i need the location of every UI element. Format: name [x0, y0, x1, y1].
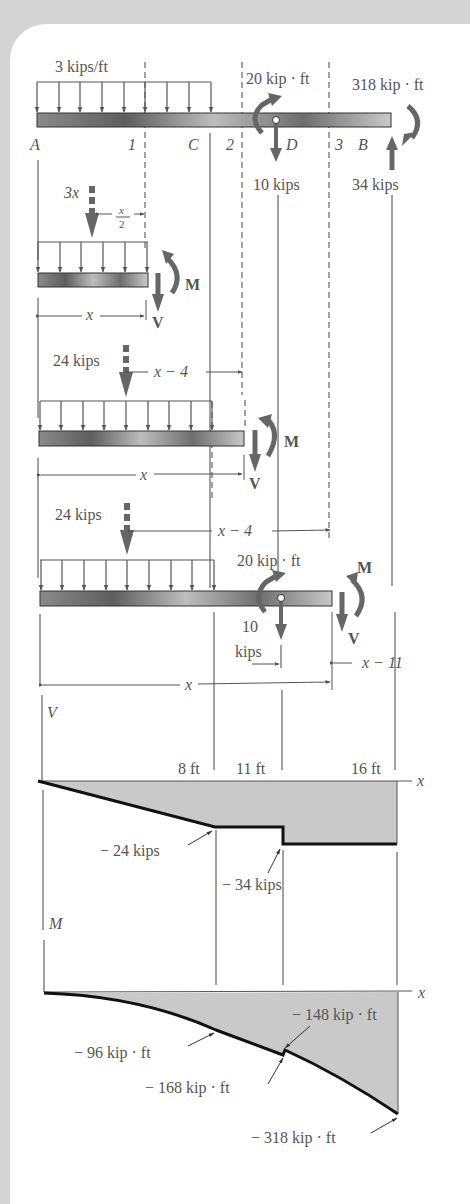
down-arrow-icon — [120, 530, 134, 555]
load-value-label: 10 — [242, 618, 258, 635]
annotation-minus-148: − 148 kip · ft — [292, 1006, 377, 1024]
down-arrow-icon — [275, 624, 287, 640]
down-arrow-icon — [152, 294, 164, 312]
load-unit-label: kips — [235, 643, 262, 661]
distance-label: x − 4 — [217, 522, 252, 539]
free-body-diagram-2: 24 kips x − 4 M V x — [39, 345, 299, 492]
tick-8ft: 8 ft — [178, 760, 200, 777]
annotation-minus-96: − 96 kip · ft — [74, 1044, 151, 1062]
shear-diagram: V x 8 ft 11 ft 16 ft − 24 kips − 34 kips — [38, 704, 424, 894]
resultant-label: 24 kips — [53, 352, 100, 370]
section-2-label: 2 — [226, 136, 234, 153]
point-b-label: B — [358, 136, 368, 153]
tick-11ft: 11 ft — [236, 760, 266, 777]
moment-label: 20 kip · ft — [237, 552, 301, 570]
distributed-load-label: 3 kips/ft — [55, 58, 108, 76]
down-arrow-icon — [270, 148, 282, 162]
up-arrow-icon — [386, 136, 398, 150]
main-beam-diagram: 3 kips/ft 20 kip · ft 318 kip · ft A — [29, 58, 424, 194]
free-body-diagram-3: 24 kips x − 4 20 kip · ft 10 kips M V — [40, 503, 403, 693]
length-label: x — [139, 466, 147, 483]
distributed-load-arrows — [37, 82, 211, 112]
beam-body — [37, 113, 391, 127]
free-body-diagram-1: 3x x 2 M V x — [38, 184, 200, 331]
fraction-den: 2 — [119, 218, 125, 230]
length-label: x — [184, 676, 192, 693]
annotation-minus-24: − 24 kips — [100, 842, 160, 860]
down-arrow-icon — [249, 454, 261, 472]
shear-v-label: V — [348, 630, 360, 647]
shear-v-label: V — [249, 475, 261, 492]
resultant-label: 24 kips — [55, 506, 102, 524]
resultant-label: 3x — [63, 184, 79, 201]
section-1-label: 1 — [128, 136, 136, 153]
hinge-icon — [278, 595, 285, 602]
x-axis-label: x — [417, 984, 425, 1001]
moment-m-label: M — [357, 559, 372, 576]
annotation-minus-34: − 34 kips — [222, 876, 282, 894]
point-c-label: C — [188, 136, 199, 153]
annotation-minus-168: − 168 kip · ft — [145, 1079, 230, 1097]
distance-label: x − 11 — [361, 654, 403, 671]
point-a-label: A — [29, 136, 40, 153]
x-axis — [44, 991, 412, 992]
section-3-label: 3 — [334, 136, 343, 153]
shear-v-label: V — [152, 314, 164, 331]
moment-b-label: 318 kip · ft — [352, 76, 424, 94]
down-arrow-icon — [336, 614, 348, 632]
moment-m-label: M — [185, 276, 200, 293]
shear-area — [38, 781, 397, 844]
moment-axis-label: M — [48, 915, 64, 932]
tick-16ft: 16 ft — [351, 760, 381, 777]
section-lines — [145, 62, 329, 540]
annotation-minus-318: − 318 kip · ft — [251, 1129, 336, 1147]
moment-m-label: M — [284, 433, 299, 450]
load-d-label: 10 kips — [253, 176, 300, 194]
reaction-b-label: 34 kips — [352, 176, 399, 194]
moment-d-label: 20 kip · ft — [246, 70, 310, 88]
moment-diagram: M x − 96 kip · ft − 148 kip · ft − 168 k… — [44, 915, 425, 1147]
reference-lines — [38, 133, 397, 1034]
hinge-icon — [273, 117, 280, 124]
length-label: x — [85, 306, 93, 323]
fraction-num: x — [118, 204, 124, 216]
moment-arrow-icon — [352, 580, 362, 616]
moment-arrow-icon — [168, 259, 177, 293]
down-arrow-icon — [85, 213, 99, 238]
shear-axis-label: V — [47, 704, 59, 721]
x-axis-label: x — [416, 772, 424, 789]
point-d-label: D — [285, 136, 298, 153]
down-arrow-icon — [119, 372, 133, 397]
distance-label: x − 4 — [153, 363, 188, 380]
